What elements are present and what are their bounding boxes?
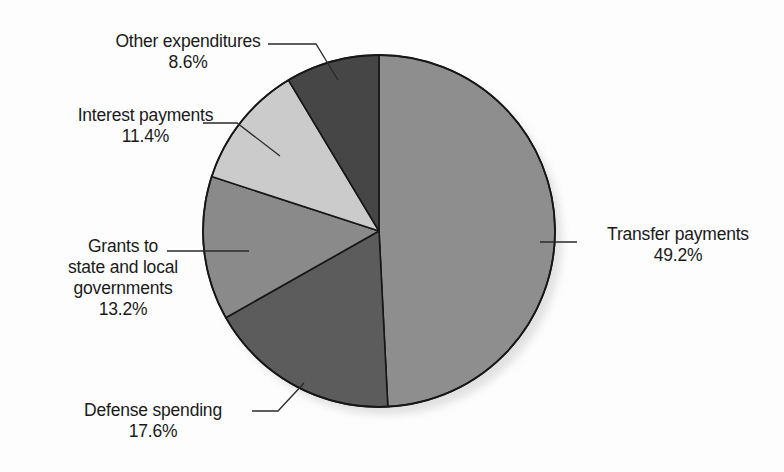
slice-label-interest-payments-value: 11.4%: [38, 126, 253, 147]
slice-label-interest-payments: Interest payments 11.4%: [38, 105, 253, 147]
slice-label-grants: Grants to state and local governments 13…: [28, 236, 218, 320]
slice-label-defense-spending: Defense spending 17.6%: [48, 400, 258, 442]
slice-label-grants-value: 13.2%: [28, 299, 218, 320]
slice-label-other-expenditures-value: 8.6%: [88, 52, 288, 73]
pie-slice-transfer-payments: [379, 55, 555, 407]
slice-label-transfer-payments: Transfer payments 49.2%: [588, 224, 768, 266]
slice-label-grants-line3: governments: [28, 278, 218, 299]
slice-label-grants-line1: Grants to: [28, 236, 218, 257]
slice-label-defense-spending-name: Defense spending: [48, 400, 258, 421]
slice-label-transfer-payments-name: Transfer payments: [588, 224, 768, 245]
pie-chart: Other expenditures 8.6% Interest payment…: [0, 0, 784, 472]
slice-label-grants-line2: state and local: [28, 257, 218, 278]
slice-label-transfer-payments-value: 49.2%: [588, 245, 768, 266]
slice-label-defense-spending-value: 17.6%: [48, 421, 258, 442]
slice-label-interest-payments-name: Interest payments: [38, 105, 253, 126]
slice-label-other-expenditures-name: Other expenditures: [88, 31, 288, 52]
slice-label-other-expenditures: Other expenditures 8.6%: [88, 31, 288, 73]
